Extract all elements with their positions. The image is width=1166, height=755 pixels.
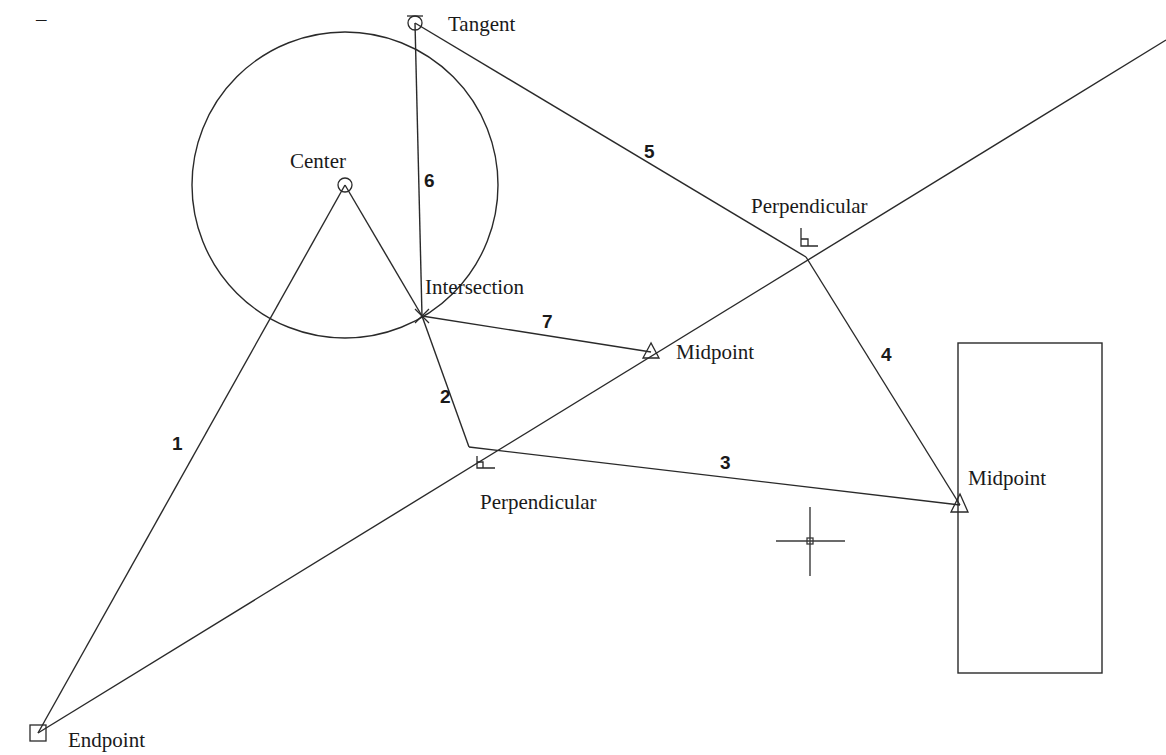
label-intersection: Intersection: [425, 275, 525, 299]
segment-4[interactable]: [806, 257, 960, 505]
perpendicular-upper-marker-icon: [801, 228, 818, 246]
label-midpoint-rect: Midpoint: [968, 466, 1046, 490]
corner-mark: –: [35, 7, 47, 31]
label-midpoint-line: Midpoint: [676, 340, 754, 364]
segment-label-2: 2: [440, 386, 451, 407]
segment-5[interactable]: [415, 23, 806, 257]
segment-label-1: 1: [172, 433, 183, 454]
label-perpendicular-lower: Perpendicular: [480, 490, 597, 514]
segment-6[interactable]: [415, 23, 422, 316]
segment-7[interactable]: [422, 316, 651, 352]
label-center: Center: [290, 149, 346, 173]
segment-label-7: 7: [542, 311, 553, 332]
segment-label-3: 3: [720, 452, 731, 473]
segment-center-intersection[interactable]: [345, 185, 422, 316]
rectangle[interactable]: [958, 343, 1102, 673]
drawing-canvas[interactable]: – Center Tangent Intersection: [0, 0, 1166, 755]
segment-label-5: 5: [644, 141, 655, 162]
label-perpendicular-upper: Perpendicular: [751, 194, 868, 218]
diagonal-line[interactable]: [38, 40, 1166, 733]
label-endpoint: Endpoint: [68, 728, 145, 752]
segment-label-6: 6: [424, 170, 435, 191]
segment-1[interactable]: [38, 185, 345, 733]
crosshair-cursor-icon: [776, 507, 845, 576]
segment-2[interactable]: [422, 316, 469, 447]
segment-label-4: 4: [881, 344, 892, 365]
label-tangent: Tangent: [448, 12, 516, 36]
